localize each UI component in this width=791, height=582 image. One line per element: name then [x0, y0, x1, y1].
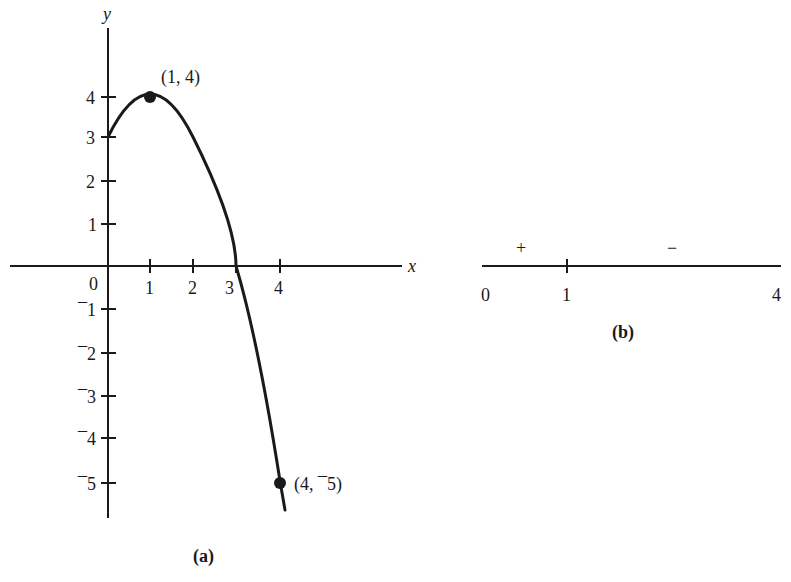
y-tick-label-3: 3 [86, 128, 95, 148]
y-tick-label-1: 1 [88, 215, 97, 235]
caption-b: (b) [612, 322, 634, 343]
max-point-marker [144, 91, 156, 103]
y-tick-label-neg5: ¯5 [77, 474, 96, 494]
y-axis-label: y [101, 4, 111, 24]
sign-plus: + [516, 238, 526, 258]
tick-label-1: 1 [562, 285, 571, 305]
y-tick-label-2: 2 [86, 172, 95, 192]
origin-label: 0 [89, 274, 98, 294]
end-point-marker [274, 477, 286, 489]
y-tick-label-neg4: ¯4 [77, 429, 96, 449]
tick-label-4: 4 [772, 285, 781, 305]
parabola-curve [108, 94, 285, 510]
x-tick-label-2: 2 [188, 278, 197, 298]
figure-canvas: y x 0 1 2 3 4 4 3 2 1 ¯1 ¯2 ¯3 ¯4 ¯5 (1,… [0, 0, 791, 582]
end-point-label: (4, ¯5) [294, 474, 342, 495]
graph-b: + − 0 1 4 (b) [481, 238, 781, 343]
tick-label-0: 0 [481, 285, 490, 305]
y-tick-label-neg1: ¯1 [77, 300, 96, 320]
y-tick-label-neg2: ¯2 [77, 344, 96, 364]
x-tick-label-4: 4 [274, 278, 283, 298]
graph-a: y x 0 1 2 3 4 4 3 2 1 ¯1 ¯2 ¯3 ¯4 ¯5 (1,… [10, 4, 416, 567]
x-tick-label-3: 3 [225, 278, 234, 298]
y-tick-label-neg3: ¯3 [77, 387, 96, 407]
y-tick-label-4: 4 [86, 88, 95, 108]
x-tick-label-1: 1 [145, 278, 154, 298]
x-axis-label: x [407, 256, 416, 276]
sign-minus: − [667, 238, 677, 258]
caption-a: (a) [193, 546, 214, 567]
max-point-label: (1, 4) [161, 67, 200, 88]
